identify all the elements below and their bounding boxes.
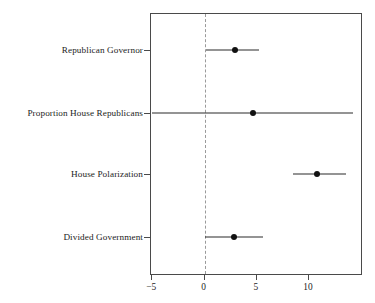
zero-reference-line — [205, 14, 206, 274]
row-label: Republican Governor — [62, 45, 143, 55]
x-axis-tick — [151, 275, 152, 280]
x-axis-tick-label: 10 — [303, 282, 312, 292]
row-label: Proportion House Republicans — [27, 108, 143, 118]
row-label: Divided Government — [63, 232, 143, 242]
row-axis-tick — [144, 237, 150, 238]
x-axis-tick-label: −5 — [146, 282, 156, 292]
row-axis-tick — [144, 113, 150, 114]
x-axis-tick-label: 0 — [201, 282, 206, 292]
estimate-point — [232, 47, 238, 53]
row-label: House Polarization — [71, 169, 143, 179]
estimate-point — [250, 110, 256, 116]
estimate-point — [314, 171, 320, 177]
x-axis-tick — [204, 275, 205, 280]
x-axis-tick — [256, 275, 257, 280]
x-axis-tick-label: 5 — [253, 282, 258, 292]
estimate-point — [231, 234, 237, 240]
row-axis-tick — [144, 174, 150, 175]
x-axis-tick — [308, 275, 309, 280]
row-axis-tick — [144, 50, 150, 51]
coefficient-plot: Republican GovernorProportion House Repu… — [0, 0, 375, 303]
